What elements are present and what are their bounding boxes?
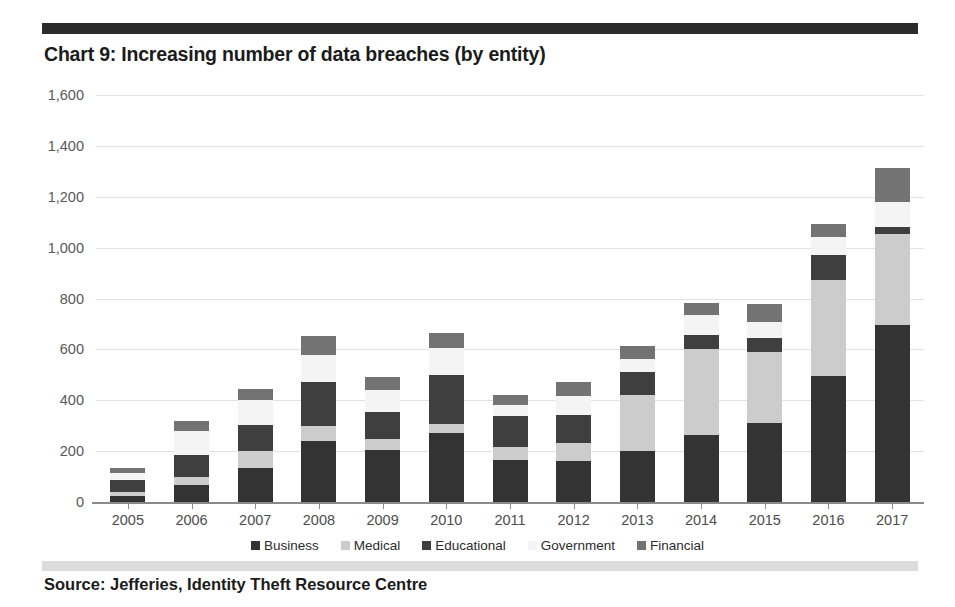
legend-label: Medical [354,538,401,553]
x-tick-label-2009: 2009 [348,512,418,528]
legend-label: Educational [435,538,506,553]
chart-legend: BusinessMedicalEducationalGovernmentFina… [0,538,955,553]
legend-label: Government [541,538,615,553]
x-tick-label-2015: 2015 [730,512,800,528]
legend-item-business[interactable]: Business [251,538,319,553]
x-tick-label-2010: 2010 [411,512,481,528]
legend-swatch-icon-medical [341,541,350,550]
source-caption: Source: Jefferies, Identity Theft Resour… [44,575,427,594]
legend-swatch-icon-financial [637,541,646,550]
x-tick-label-2012: 2012 [539,512,609,528]
legend-swatch-icon-government [528,541,537,550]
x-tick-label-2013: 2013 [602,512,672,528]
x-tick-label-2011: 2011 [475,512,545,528]
x-tick-label-2005: 2005 [93,512,163,528]
x-tick-label-2007: 2007 [220,512,290,528]
legend-label: Financial [650,538,704,553]
x-tick-label-2016: 2016 [793,512,863,528]
plot-wrapper: 02004006008001,0001,2001,4001,600 200520… [0,0,955,607]
legend-item-financial[interactable]: Financial [637,538,704,553]
legend-item-medical[interactable]: Medical [341,538,401,553]
x-tick-label-2017: 2017 [857,512,927,528]
legend-label: Business [264,538,319,553]
x-tick-label-2006: 2006 [157,512,227,528]
x-tick-label-2008: 2008 [284,512,354,528]
footer-divider-rule [42,561,918,571]
chart-page: Chart 9: Increasing number of data breac… [0,0,955,607]
legend-swatch-icon-educational [422,541,431,550]
x-tick-label-2014: 2014 [666,512,736,528]
legend-swatch-icon-business [251,541,260,550]
legend-item-educational[interactable]: Educational [422,538,506,553]
legend-item-government[interactable]: Government [528,538,615,553]
x-axis-labels: 2005200620072008200920102011201220132014… [0,0,955,607]
